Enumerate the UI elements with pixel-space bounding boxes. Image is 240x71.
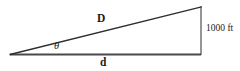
geometry-figure: D d θ 1000 ft	[0, 0, 240, 71]
right-triangle-graphic	[0, 0, 240, 71]
angle-theta-label: θ	[54, 41, 59, 52]
triangle-hypotenuse-line	[10, 7, 202, 55]
hypotenuse-label: D	[97, 13, 105, 25]
base-label: d	[100, 57, 106, 69]
height-measurement-label: 1000 ft	[206, 24, 233, 34]
